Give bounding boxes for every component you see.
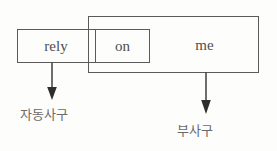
word-me: me: [150, 38, 259, 53]
annotation-intransitive-verb-phrase: 자동사구: [20, 108, 68, 121]
phrase-diagram-canvas: rely on me 자동사구 부사구: [0, 0, 277, 151]
annotation-adverbial-phrase: 부사구: [177, 124, 213, 137]
word-rely: rely: [17, 39, 95, 54]
arrow-down-adverbial-icon: [198, 72, 214, 116]
word-on: on: [95, 39, 150, 54]
arrow-down-intransitive-icon: [44, 62, 60, 102]
